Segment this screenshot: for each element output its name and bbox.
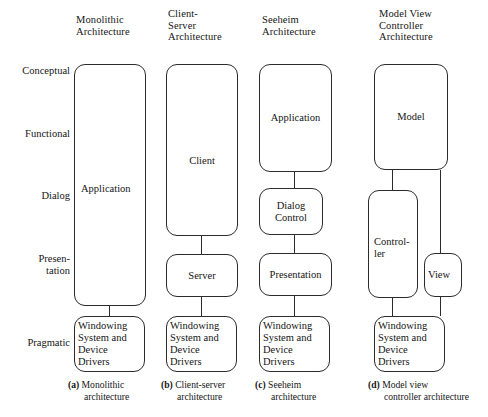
connector-controller-windowing <box>392 298 393 316</box>
connector-seeheim-presentation-windowing <box>294 296 295 316</box>
node-label-monolithic-application: Application <box>78 183 133 195</box>
caption-c: (c) Seeheim architecture <box>255 379 351 403</box>
node-label-seeheim-dialog-control: Dialog Control <box>273 200 309 224</box>
caption-d-tag: (d) <box>368 379 380 390</box>
node-label-seeheim-windowing: Windowing System and Device Drivers <box>260 320 314 368</box>
node-label-server: Server <box>186 270 217 282</box>
node-client-server-windowing[interactable]: Windowing System and Device Drivers <box>166 316 237 372</box>
node-mvc-controller[interactable]: Control- ler <box>368 190 418 298</box>
node-client[interactable]: Client <box>166 64 238 236</box>
connector-client-server <box>201 236 202 254</box>
caption-b: (b) Client-server architecture <box>161 379 261 403</box>
node-seeheim-application[interactable]: Application <box>259 64 332 172</box>
connector-model-view <box>440 170 441 253</box>
node-label-mvc-controller: Control- ler <box>371 236 412 260</box>
node-label-seeheim-presentation: Presentation <box>268 269 324 281</box>
connector-seeheim-dialog-presentation <box>294 235 295 253</box>
architecture-layers-figure: Monolithic Architecture Client- Server A… <box>0 0 488 417</box>
axis-label-pragmatic: Pragmatic <box>0 337 70 349</box>
axis-label-dialog: Dialog <box>0 190 70 202</box>
caption-a: (a) Monolithic architecture <box>68 379 164 403</box>
node-seeheim-windowing[interactable]: Windowing System and Device Drivers <box>259 316 330 372</box>
caption-d-line1: Model view <box>382 379 428 390</box>
column-header-monolithic: Monolithic Architecture <box>76 14 156 37</box>
caption-a-tag: (a) <box>68 379 79 390</box>
axis-label-presentation: Presen- tation <box>0 253 70 276</box>
caption-b-line1: Client-server <box>175 379 225 390</box>
caption-d-line2: controller architecture <box>368 391 488 403</box>
column-header-model-view-controller: Model View Controller Architecture <box>379 8 479 43</box>
node-label-seeheim-application: Application <box>269 112 323 124</box>
axis-label-conceptual: Conceptual <box>0 65 70 77</box>
connector-server-windowing <box>201 297 202 316</box>
connector-seeheim-application-dialog <box>294 172 295 188</box>
caption-a-line1: Monolithic <box>82 379 125 390</box>
column-header-seeheim: Seeheim Architecture <box>262 14 344 37</box>
caption-c-line2: architecture <box>255 391 351 403</box>
caption-c-line1: Seeheim <box>268 379 301 390</box>
node-mvc-model[interactable]: Model <box>374 64 448 170</box>
connector-view-windowing <box>440 297 441 316</box>
caption-c-tag: (c) <box>255 379 266 390</box>
node-server[interactable]: Server <box>166 254 238 297</box>
node-mvc-windowing[interactable]: Windowing System and Device Drivers <box>374 316 445 372</box>
caption-d: (d) Model view controller architecture <box>368 379 488 403</box>
node-label-mvc-model: Model <box>395 111 426 123</box>
node-label-mvc-view: View <box>425 269 452 281</box>
caption-b-tag: (b) <box>161 379 173 390</box>
node-seeheim-dialog-control[interactable]: Dialog Control <box>259 188 323 235</box>
node-monolithic-windowing[interactable]: Windowing System and Device Drivers <box>74 316 145 372</box>
node-label-mvc-windowing: Windowing System and Device Drivers <box>375 320 429 368</box>
node-monolithic-application[interactable]: Application <box>74 64 146 306</box>
axis-label-functional: Functional <box>0 128 70 140</box>
caption-b-line2: architecture <box>161 391 261 403</box>
column-header-client-server: Client- Server Architecture <box>168 8 250 43</box>
node-mvc-view[interactable]: View <box>424 253 462 297</box>
node-label-monolithic-windowing: Windowing System and Device Drivers <box>75 320 129 368</box>
connector-model-controller <box>392 170 393 190</box>
node-label-client-server-windowing: Windowing System and Device Drivers <box>167 320 221 368</box>
caption-a-line2: architecture <box>68 391 164 403</box>
node-label-client: Client <box>167 155 237 167</box>
node-seeheim-presentation[interactable]: Presentation <box>259 253 332 296</box>
